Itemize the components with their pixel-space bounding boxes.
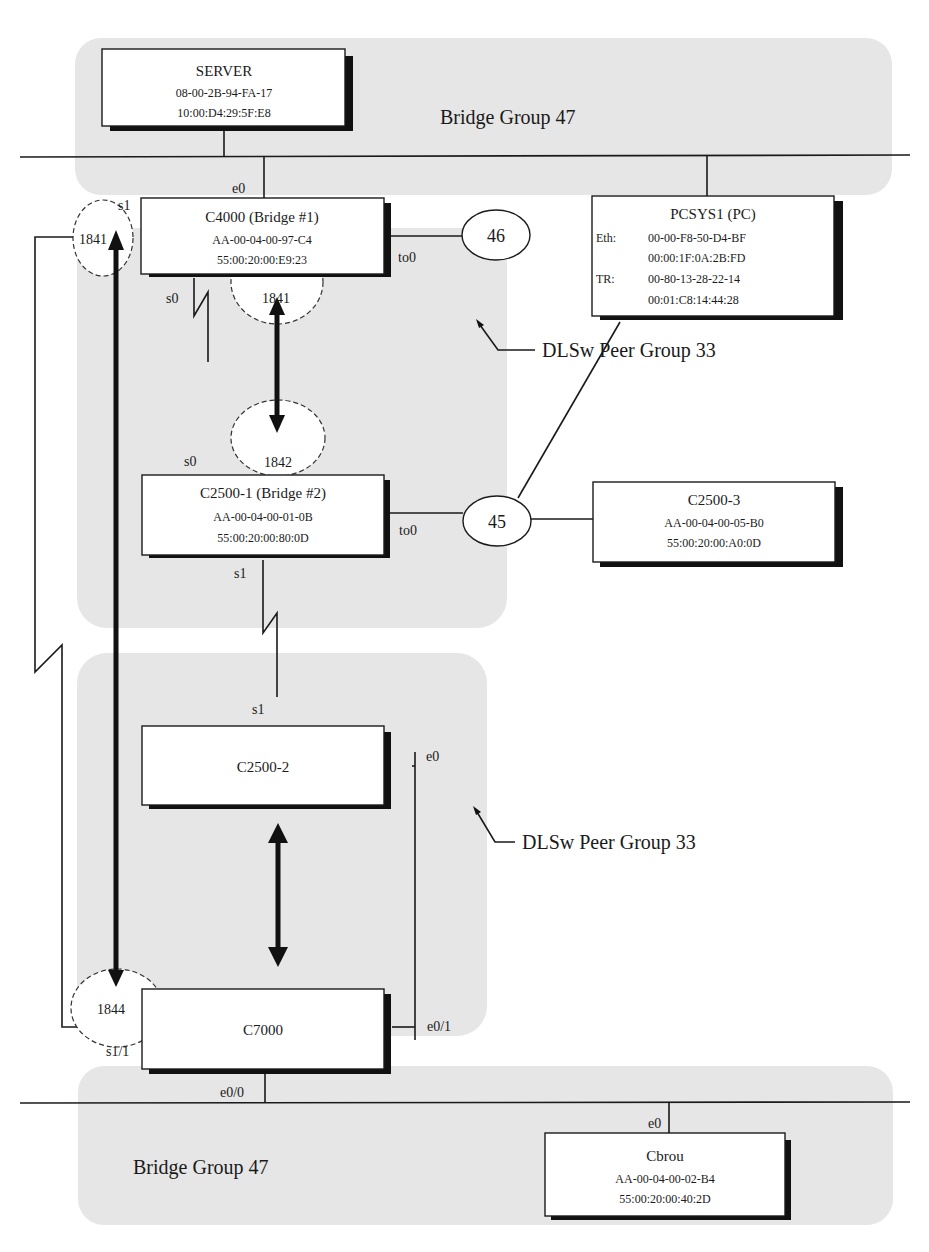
server-mac-2: 10:00:D4:29:5F:E8 (177, 106, 270, 120)
pcsys1-tr-mac-1: 00-80-13-28-22-14 (648, 272, 740, 286)
iface-c2500-2-e0: e0 (426, 749, 439, 764)
server-name: SERVER (196, 63, 252, 79)
pcsys1-eth-mac-1: 00-00-F8-50-D4-BF (648, 231, 746, 245)
dlsw-lower-label: DLSw Peer Group 33 (522, 831, 696, 854)
iface-c2500-2-s1: s1 (252, 702, 264, 717)
c2500-1-name: C2500-1 (Bridge #2) (200, 485, 326, 502)
pcsys1-eth-label: Eth: (596, 231, 616, 245)
device-server[interactable]: SERVER 08-00-2B-94-FA-17 10:00:D4:29:5F:… (102, 49, 353, 131)
dlsw-upper-label: DLSw Peer Group 33 (542, 339, 716, 362)
server-mac-1: 08-00-2B-94-FA-17 (176, 86, 272, 100)
ring-46-label: 46 (487, 226, 505, 246)
ethernet-segment-bottom (20, 1102, 910, 1103)
device-cbrou[interactable]: Cbrou AA-00-04-00-02-B4 55:00:20:00:40:2… (545, 1133, 791, 1220)
iface-c4000-e0: e0 (232, 181, 245, 196)
peer-port-c2500-1-top: 1842 (264, 455, 292, 470)
bridge-group-bottom-label: Bridge Group 47 (133, 1156, 269, 1179)
cbrou-mac-1: AA-00-04-00-02-B4 (615, 1172, 714, 1186)
iface-c4000-s1: s1 (118, 198, 130, 213)
iface-c7000-e0-0: e0/0 (220, 1085, 244, 1100)
iface-c2500-1-s1: s1 (234, 566, 246, 581)
token-ring-45[interactable]: 45 (463, 496, 531, 546)
c4000-mac-2: 55:00:20:00:E9:23 (217, 253, 307, 267)
iface-c2500-1-s0: s0 (184, 454, 196, 469)
device-c7000[interactable]: C7000 (142, 989, 391, 1074)
device-c2500-2[interactable]: C2500-2 (142, 726, 391, 809)
pcsys1-name: PCSYS1 (PC) (670, 206, 755, 223)
c2500-1-mac-2: 55:00:20:00:80:0D (217, 531, 309, 545)
device-c2500-1[interactable]: C2500-1 (Bridge #2) AA-00-04-00-01-0B 55… (142, 475, 390, 558)
pcsys1-tr-mac-2: 00:01:C8:14:44:28 (648, 293, 739, 307)
iface-c7000-s1-1: s1/1 (106, 1044, 129, 1059)
iface-cbrou-e0: e0 (648, 1116, 661, 1131)
iface-c2500-1-to0: to0 (399, 523, 417, 538)
pcsys1-tr-label: TR: (596, 272, 615, 286)
cbrou-mac-2: 55:00:20:00:40:2D (619, 1192, 711, 1206)
peer-port-c4000-bottom: 1841 (262, 291, 290, 306)
c4000-mac-1: AA-00-04-00-97-C4 (212, 233, 311, 247)
bridge-group-top-label: Bridge Group 47 (440, 106, 576, 129)
c7000-name: C7000 (243, 1022, 283, 1038)
c2500-3-name: C2500-3 (688, 492, 741, 508)
peer-port-c7000: 1844 (97, 1002, 125, 1017)
device-pcsys1[interactable]: PCSYS1 (PC) Eth: 00-00-F8-50-D4-BF 00:00… (592, 196, 843, 320)
iface-c4000-s0: s0 (166, 291, 178, 306)
iface-c4000-to0: to0 (398, 250, 416, 265)
iface-c7000-e0-1: e0/1 (427, 1019, 451, 1034)
device-c2500-3[interactable]: C2500-3 AA-00-04-00-05-B0 55:00:20:00:A0… (593, 482, 843, 567)
network-diagram: SERVER 08-00-2B-94-FA-17 10:00:D4:29:5F:… (0, 0, 929, 1252)
c2500-3-mac-1: AA-00-04-00-05-B0 (664, 516, 763, 530)
ring-45-label: 45 (488, 512, 506, 532)
c2500-2-name: C2500-2 (237, 759, 290, 775)
c2500-3-mac-2: 55:00:20:00:A0:0D (667, 536, 761, 550)
peer-port-c4000-s1: 1841 (79, 232, 107, 247)
device-c4000[interactable]: C4000 (Bridge #1) AA-00-04-00-97-C4 55:0… (141, 198, 391, 277)
c4000-name: C4000 (Bridge #1) (205, 209, 318, 226)
pcsys1-eth-mac-2: 00:00:1F:0A:2B:FD (648, 251, 746, 265)
c2500-1-mac-1: AA-00-04-00-01-0B (213, 510, 312, 524)
token-ring-46[interactable]: 46 (462, 210, 530, 260)
cbrou-name: Cbrou (646, 1148, 684, 1164)
